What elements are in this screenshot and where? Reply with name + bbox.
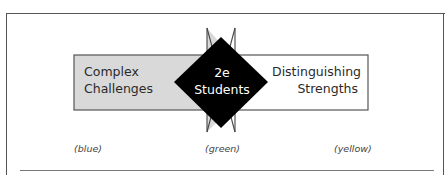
right-line-1: Distinguishing	[272, 63, 358, 80]
left-line-2: Challenges	[84, 80, 153, 97]
complex-challenges-label: Complex Challenges	[84, 63, 153, 97]
color-note-yellow: (yellow)	[334, 143, 372, 154]
color-note-blue: (blue)	[74, 143, 102, 154]
left-line-1: Complex	[84, 63, 153, 80]
distinguishing-strengths-label: Distinguishing Strengths	[272, 63, 358, 97]
center-line-2: Students	[186, 81, 258, 98]
right-line-2: Strengths	[272, 80, 358, 97]
color-note-green: (green)	[205, 143, 240, 154]
2e-students-label: 2e Students	[186, 64, 258, 98]
center-line-1: 2e	[186, 64, 258, 81]
